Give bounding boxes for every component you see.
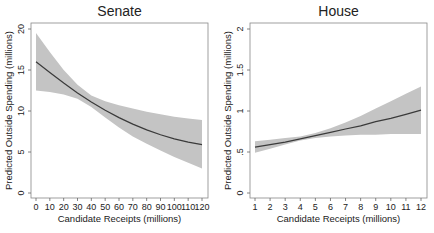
senate-ytick-label: 0	[16, 190, 26, 195]
senate-ytick-label: 15	[16, 65, 26, 75]
house-xtick-label: 1	[252, 202, 257, 212]
house-ytick-label: .5	[235, 148, 245, 156]
house-xtick-label: 5	[313, 202, 318, 212]
senate-chart-title: Senate	[97, 3, 142, 19]
house-chart-panel: House0.511.52123456789101112Candidate Re…	[222, 3, 427, 224]
senate-xtick-label: 30	[72, 202, 82, 212]
house-xtick-label: 9	[373, 202, 378, 212]
chart-canvas: Senate0510152001020304050607080901001101…	[0, 0, 434, 233]
senate-xtick-label: 40	[86, 202, 96, 212]
senate-xtick-label: 70	[128, 202, 138, 212]
senate-xtick-label: 90	[155, 202, 165, 212]
house-ytick-label: 2	[235, 26, 245, 31]
senate-xtick-label: 120	[194, 202, 209, 212]
senate-xtick-label: 60	[114, 202, 124, 212]
house-xtick-label: 2	[268, 202, 273, 212]
senate-xtick-label: 100	[167, 202, 182, 212]
senate-xtick-label: 20	[59, 202, 69, 212]
house-y-axis-label: Predicted Outside Spending (millions)	[222, 31, 233, 190]
senate-ytick-label: 20	[16, 24, 26, 34]
senate-ytick-label: 10	[16, 106, 26, 116]
house-xtick-label: 11	[401, 202, 410, 212]
house-xtick-label: 3	[283, 202, 288, 212]
house-ytick-label: 1	[235, 108, 245, 113]
house-xtick-label: 4	[298, 202, 303, 212]
senate-xtick-label: 110	[181, 202, 195, 212]
house-ytick-label: 1.5	[235, 64, 245, 77]
senate-chart-panel: Senate0510152001020304050607080901001101…	[3, 3, 210, 224]
senate-x-axis-label: Candidate Receipts (millions)	[58, 213, 182, 224]
senate-xtick-label: 0	[33, 202, 38, 212]
house-xtick-label: 7	[343, 202, 348, 212]
house-chart-title: House	[318, 3, 359, 19]
senate-ytick-label: 5	[16, 149, 26, 154]
senate-y-axis-label: Predicted Outside Spending (millions)	[3, 31, 14, 190]
house-xtick-label: 12	[416, 202, 426, 212]
senate-xtick-label: 10	[45, 202, 55, 212]
house-xtick-label: 8	[358, 202, 363, 212]
senate-xtick-label: 50	[100, 202, 110, 212]
house-xtick-label: 6	[328, 202, 333, 212]
senate-confidence-band	[36, 33, 202, 168]
house-x-axis-label: Candidate Receipts (millions)	[277, 213, 401, 224]
house-xtick-label: 10	[386, 202, 396, 212]
house-ytick-label: 0	[235, 190, 245, 195]
senate-xtick-label: 80	[142, 202, 152, 212]
